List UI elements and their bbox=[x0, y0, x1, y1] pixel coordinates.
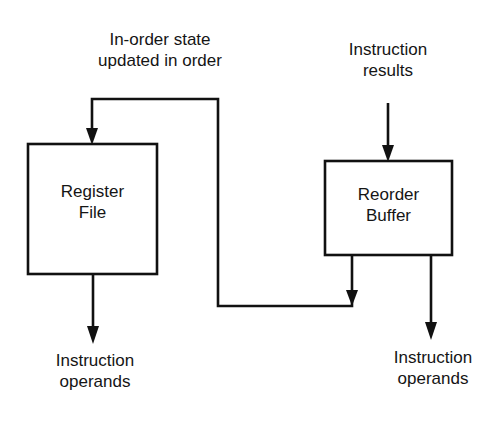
instruction-results-label-line1: Instruction bbox=[333, 39, 443, 60]
left-instruction-operands-label-line1: Instruction bbox=[40, 350, 150, 371]
left-instruction-operands-label-line2: operands bbox=[40, 371, 150, 392]
right-instruction-operands-label: Instruction operands bbox=[378, 347, 488, 389]
register-file-label-line2: File bbox=[28, 202, 157, 223]
left-instruction-operands-label: Instruction operands bbox=[40, 350, 150, 392]
reorder-buffer-label-line2: Buffer bbox=[325, 205, 452, 226]
in-order-state-label-line2: updated in order bbox=[80, 50, 240, 71]
register-file-label-line1: Register bbox=[28, 181, 157, 202]
arrow-head-feedback-bend-icon bbox=[346, 290, 358, 306]
right-instruction-operands-label-line2: operands bbox=[378, 368, 488, 389]
instruction-results-label: Instruction results bbox=[333, 39, 443, 81]
arrow-head-right-operands-icon bbox=[425, 322, 437, 340]
reorder-buffer-label: Reorder Buffer bbox=[325, 184, 452, 226]
register-file-label: Register File bbox=[28, 181, 157, 223]
arrow-head-left-operands-icon bbox=[87, 326, 99, 344]
instruction-results-label-line2: results bbox=[333, 60, 443, 81]
in-order-state-label: In-order state updated in order bbox=[80, 29, 240, 71]
right-instruction-operands-label-line1: Instruction bbox=[378, 347, 488, 368]
arrow-head-into-reorder-buffer-icon bbox=[382, 145, 394, 162]
reorder-buffer-label-line1: Reorder bbox=[325, 184, 452, 205]
arrow-head-into-register-file-icon bbox=[86, 128, 98, 145]
in-order-state-label-line1: In-order state bbox=[80, 29, 240, 50]
